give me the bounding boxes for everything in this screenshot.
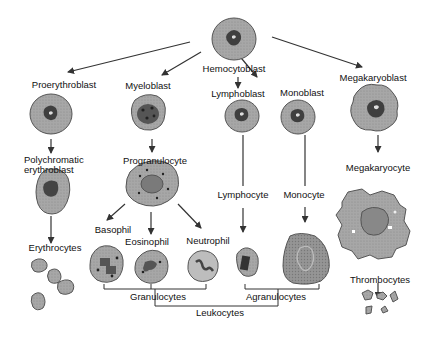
label-eosinophil: Eosinophil <box>125 237 169 247</box>
label-leukocytes: Leukocytes <box>196 308 244 318</box>
hematopoiesis-diagram: Hemocytoblast Proerythroblast Myeloblast… <box>0 0 433 343</box>
eosinophil-cell <box>135 250 168 283</box>
basophil-cell <box>90 246 123 283</box>
megakaryocyte-cell <box>336 189 410 259</box>
label-megakaryoblast: Megakaryoblast <box>339 73 406 83</box>
polychromatic-erythroblast-cell <box>36 169 70 214</box>
hemocytoblast-cell <box>212 18 256 60</box>
label-neutrophil: Neutrophil <box>186 236 229 246</box>
label-myeloblast: Myeloblast <box>125 81 170 91</box>
label-monoblast: Monoblast <box>280 88 324 98</box>
label-lymphoblast: Lymphoblast <box>211 89 265 99</box>
label-erythroblast: erythroblast <box>24 165 74 175</box>
proerythroblast-cell <box>30 94 72 134</box>
neutrophil-cell <box>188 251 218 282</box>
label-thrombocytes: Thrombocytes <box>350 275 410 285</box>
progranulocyte-cell <box>126 161 179 206</box>
myeloblast-cell <box>131 95 165 130</box>
label-progranulocyte: Progranulocyte <box>123 156 187 166</box>
label-monocyte: Monocyte <box>283 190 324 200</box>
label-agranulocytes: Agranulocytes <box>246 292 306 302</box>
monoblast-cell <box>281 100 315 134</box>
megakaryoblast-cell <box>351 84 398 131</box>
erythrocytes-cells <box>31 259 74 310</box>
label-proerythroblast: Proerythroblast <box>32 80 96 90</box>
label-hemocytoblast: Hemocytoblast <box>203 64 266 74</box>
lymphoblast-cell <box>225 100 259 132</box>
monocyte-cell <box>283 234 329 285</box>
label-granulocytes: Granulocytes <box>130 292 186 302</box>
lymphocyte-cell <box>237 248 259 276</box>
label-lymphocyte: Lymphocyte <box>218 190 269 200</box>
label-basophil: Basophil <box>95 225 131 235</box>
label-megakaryocyte: Megakaryocyte <box>346 163 410 173</box>
thrombocytes-cells <box>362 290 398 314</box>
label-erythrocytes: Erythrocytes <box>29 243 82 253</box>
